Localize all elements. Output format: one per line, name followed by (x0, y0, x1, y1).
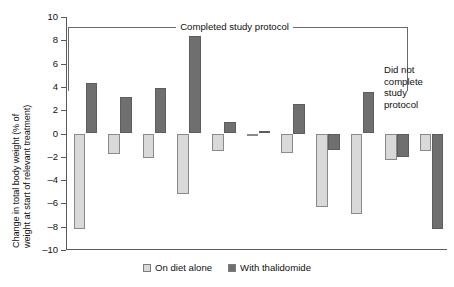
chart-legend: On diet aloneWith thalidomide (0, 262, 454, 273)
y-axis-title-line-1: Change in total body weight (% of (11, 114, 21, 248)
bar-diet-alone-patient-11 (420, 134, 432, 151)
bar-thalidomide-patient-7 (293, 104, 305, 133)
bar-diet-alone-patient-5 (212, 134, 224, 151)
did-not-complete-note-line-1: Did not (384, 64, 414, 76)
did-not-complete-note-line-3: study (384, 87, 407, 99)
bar-diet-alone-patient-4 (177, 134, 189, 195)
y-axis-tick-label: –8 (32, 222, 58, 232)
bar-thalidomide-patient-9 (363, 92, 375, 134)
bar-thalidomide-patient-3 (155, 88, 167, 133)
legend-swatch-icon (228, 264, 236, 272)
completed-study-protocol-bracket (68, 27, 408, 91)
bar-thalidomide-patient-2 (120, 97, 132, 133)
y-axis-tick-label: –4 (32, 175, 58, 185)
bar-diet-alone-patient-7 (281, 134, 293, 154)
completed-study-protocol-label: Completed study protocol (176, 21, 293, 32)
y-axis-tick-label: –2 (32, 152, 58, 162)
y-axis-tick-label: 10 (32, 12, 58, 22)
y-axis-title-line-2: weight at start of relevant treatment) (22, 105, 32, 248)
y-axis-tick-label: –10 (32, 245, 58, 255)
bar-thalidomide-patient-8 (328, 134, 340, 150)
bar-diet-alone-patient-9 (351, 134, 363, 214)
did-not-complete-note-line-2: complete (384, 76, 423, 88)
y-axis-tick-label: 2 (32, 105, 58, 115)
y-axis-tick-label: –6 (32, 198, 58, 208)
bar-thalidomide-patient-6 (259, 131, 271, 133)
y-axis-tick-label: 8 (32, 35, 58, 45)
did-not-complete-note-line-4: protocol (384, 99, 418, 111)
legend-item-thalidomide[interactable]: With thalidomide (228, 262, 311, 273)
y-axis-tick-label: 6 (32, 59, 58, 69)
bar-thalidomide-patient-11 (432, 134, 444, 230)
legend-label: On diet alone (155, 262, 212, 273)
y-axis-tick-label: 0 (32, 129, 58, 139)
bar-thalidomide-patient-5 (224, 122, 236, 134)
bar-diet-alone-patient-6 (247, 134, 259, 136)
legend-label: With thalidomide (240, 262, 311, 273)
bar-diet-alone-patient-1 (74, 134, 86, 230)
bar-diet-alone-patient-8 (316, 134, 328, 207)
legend-item-diet-alone[interactable]: On diet alone (143, 262, 212, 273)
bar-diet-alone-patient-10 (385, 134, 397, 161)
y-axis-tick (61, 250, 66, 251)
legend-swatch-icon (143, 264, 151, 272)
bar-diet-alone-patient-3 (143, 134, 155, 158)
bar-thalidomide-patient-10 (397, 134, 409, 157)
y-axis-tick-label: 4 (32, 82, 58, 92)
chart-figure: Change in total body weight (% of weight… (0, 0, 454, 287)
bar-diet-alone-patient-2 (108, 134, 120, 155)
